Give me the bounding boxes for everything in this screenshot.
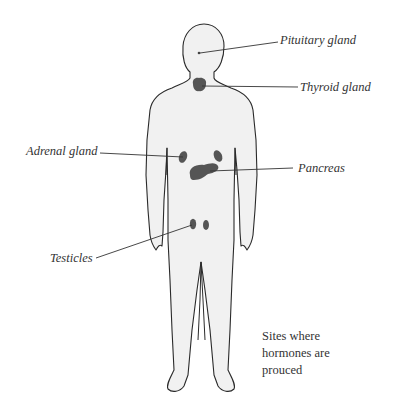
pituitary-gland-label: Pituitary gland [280, 34, 356, 47]
testicle-right [203, 220, 209, 230]
diagram-caption: Sites where hormones are prouced [262, 328, 382, 379]
pancreas-label: Pancreas [298, 162, 345, 175]
caption-line-3: prouced [262, 362, 382, 379]
testicles-label: Testicles [50, 252, 93, 265]
thyroid-gland [193, 78, 206, 91]
endocrine-diagram: Pituitary gland Thyroid gland Adrenal gl… [0, 0, 400, 407]
adrenal-gland-label: Adrenal gland [26, 145, 97, 158]
pituitary-gland-marker [198, 52, 201, 55]
caption-line-2: hormones are [262, 345, 382, 362]
caption-line-1: Sites where [262, 328, 382, 345]
thyroid-gland-label: Thyroid gland [300, 81, 371, 94]
testicle-left [190, 219, 196, 229]
